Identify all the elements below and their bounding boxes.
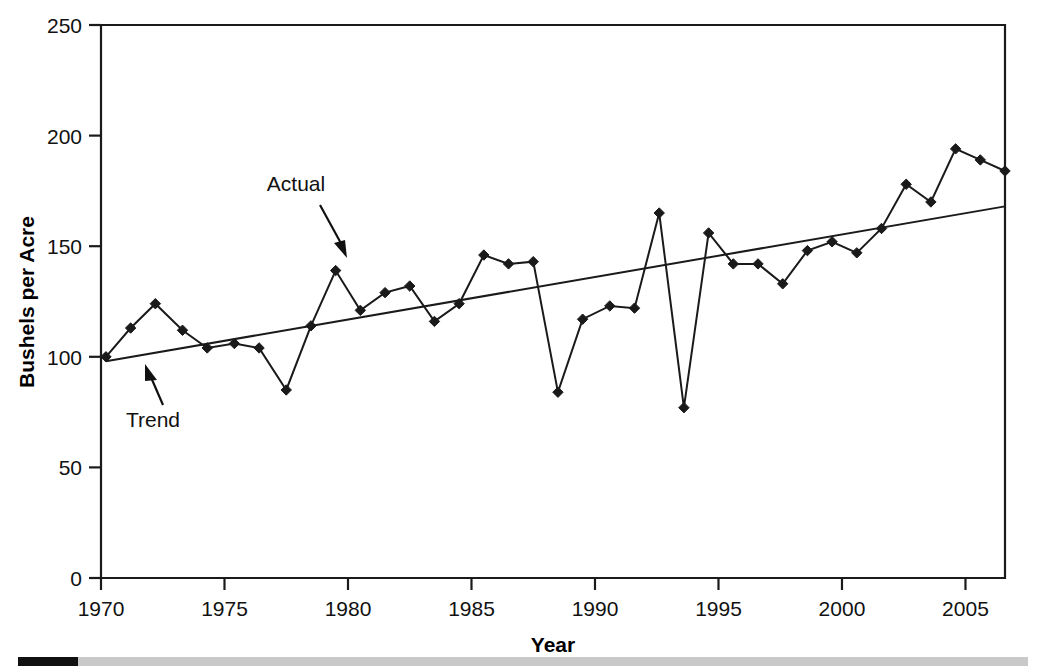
- y-tick-label: 200: [47, 125, 82, 148]
- y-tick-label: 250: [47, 14, 82, 37]
- x-tick-label: 2000: [819, 597, 866, 620]
- y-axis-title: Bushels per Acre: [15, 216, 38, 388]
- chart-background: [0, 0, 1040, 670]
- trend-annotation-label: Trend: [126, 408, 180, 431]
- actual-annotation-label: Actual: [267, 172, 325, 195]
- y-tick-label: 100: [47, 346, 82, 369]
- x-tick-label: 1995: [695, 597, 742, 620]
- x-tick-label: 1985: [448, 597, 495, 620]
- y-tick-label: 50: [59, 456, 82, 479]
- footer-bar-black-segment: [18, 657, 78, 666]
- x-tick-label: 1975: [201, 597, 248, 620]
- x-tick-label: 1970: [78, 597, 125, 620]
- footer-bar: [18, 657, 1028, 666]
- x-tick-label: 2005: [942, 597, 989, 620]
- x-tick-label: 1990: [572, 597, 619, 620]
- y-tick-label: 0: [70, 567, 82, 590]
- x-axis-title: Year: [531, 633, 575, 656]
- footer-bar-gray-segment: [18, 657, 1028, 666]
- yield-trend-line-chart: 050100150200250 197019751980198519901995…: [0, 0, 1040, 670]
- chart-figure: 050100150200250 197019751980198519901995…: [0, 0, 1040, 670]
- x-tick-label: 1980: [325, 597, 372, 620]
- y-tick-label: 150: [47, 235, 82, 258]
